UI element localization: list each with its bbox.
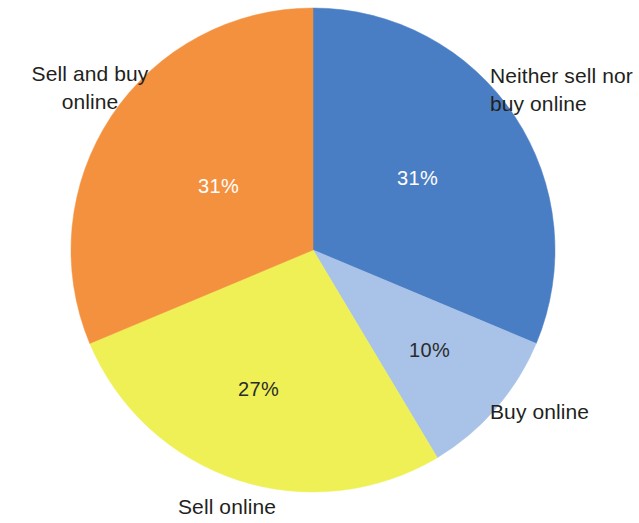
pie-chart: Sell and buy online Neither sell nor buy…: [0, 0, 639, 523]
slice-label-neither-sell-nor-buy-online: Neither sell nor buy online: [490, 62, 636, 117]
slice-value-buy-online: 10%: [409, 339, 450, 362]
slice-label-sell-online: Sell online: [178, 493, 348, 521]
slice-value-sell-and-buy-online: 31%: [198, 175, 239, 198]
slice-value-neither-sell-nor-buy-online: 31%: [397, 167, 438, 190]
slice-label-buy-online: Buy online: [490, 398, 630, 426]
slice-value-sell-online: 27%: [238, 378, 279, 401]
slice-label-sell-and-buy-online: Sell and buy online: [6, 60, 174, 115]
